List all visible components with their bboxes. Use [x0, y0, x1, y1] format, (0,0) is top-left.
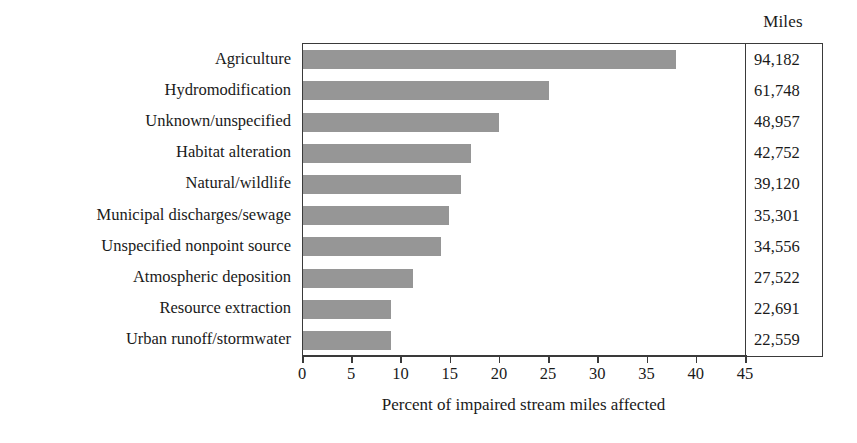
miles-value-table: 94,18261,74848,95742,75239,12035,30134,5…: [745, 43, 823, 357]
x-axis-tick-label: 0: [298, 366, 306, 383]
x-axis-tick: [745, 355, 747, 363]
x-axis-tick: [647, 355, 649, 363]
x-axis-tick-label: 20: [491, 366, 508, 383]
x-axis-tick: [450, 355, 452, 363]
category-label: Municipal discharges/sewage: [0, 207, 296, 224]
bar: [303, 175, 461, 194]
category-label: Resource extraction: [0, 300, 296, 317]
x-axis-tick-label: 10: [392, 366, 409, 383]
x-axis-tick-label: 45: [737, 366, 754, 383]
x-axis-tick: [302, 355, 304, 363]
miles-value: 42,752: [754, 145, 800, 162]
bar: [303, 144, 471, 163]
x-axis-title: Percent of impaired stream miles affecte…: [302, 396, 745, 413]
miles-value: 39,120: [754, 176, 800, 193]
x-axis-tick: [548, 355, 550, 363]
x-axis-tick-label: 5: [347, 366, 355, 383]
x-axis-tick: [597, 355, 599, 363]
bar: [303, 50, 676, 69]
x-axis-tick: [400, 355, 402, 363]
miles-value: 27,522: [754, 270, 800, 287]
x-axis-tick-label: 40: [688, 366, 705, 383]
miles-value: 94,182: [754, 52, 800, 69]
miles-value: 22,691: [754, 301, 800, 318]
bar: [303, 300, 391, 319]
bar: [303, 81, 549, 100]
bar: [303, 113, 499, 132]
x-axis-tick-label: 15: [441, 366, 458, 383]
x-axis-tick-label: 30: [589, 366, 606, 383]
x-axis-tick-label: 35: [638, 366, 655, 383]
bar-chart-figure: Miles AgricultureHydromodificationUnknow…: [0, 0, 857, 443]
category-label: Unknown/unspecified: [0, 113, 296, 130]
category-label: Natural/wildlife: [0, 175, 296, 192]
x-axis-line: [302, 355, 746, 357]
x-axis-tick: [351, 355, 353, 363]
category-label: Agriculture: [0, 51, 296, 68]
miles-column-header: Miles: [745, 13, 821, 30]
category-label: Hydromodification: [0, 82, 296, 99]
x-axis-tick-label: 25: [540, 366, 557, 383]
x-axis-tick: [499, 355, 501, 363]
category-axis-labels: AgricultureHydromodificationUnknown/unsp…: [0, 43, 296, 355]
category-label: Atmospheric deposition: [0, 269, 296, 286]
miles-value: 34,556: [754, 239, 800, 256]
miles-value: 61,748: [754, 83, 800, 100]
bar: [303, 331, 391, 350]
plot-area: [302, 43, 746, 357]
category-label: Unspecified nonpoint source: [0, 238, 296, 255]
miles-value: 48,957: [754, 114, 800, 131]
miles-value: 35,301: [754, 208, 800, 225]
category-label: Urban runoff/stormwater: [0, 331, 296, 348]
x-axis-tick: [696, 355, 698, 363]
bar: [303, 269, 413, 288]
miles-value: 22,559: [754, 332, 800, 349]
bar: [303, 237, 441, 256]
bar: [303, 206, 449, 225]
category-label: Habitat alteration: [0, 144, 296, 161]
